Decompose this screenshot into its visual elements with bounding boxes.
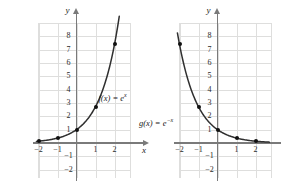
function-label-fx-text: f(x) = e [99,93,125,103]
y-tick-label: 7 [204,46,216,54]
gridline-horizontal [179,23,271,24]
gridline-horizontal [179,116,271,117]
x-tick-label: −2 [33,146,45,154]
gridline-horizontal [38,76,130,77]
function-label-gx: g(x) = e−x [139,117,173,128]
gridline-vertical [271,23,272,178]
y-tick-label: 1 [204,126,216,134]
x-axis-right [174,142,281,143]
y-tick-label: 2 [63,112,75,120]
gridline-horizontal [38,50,130,51]
y-tick-label: −1 [63,152,75,160]
y-tick-label: 1 [63,126,75,134]
gridline-horizontal [38,116,130,117]
data-point [113,42,117,46]
gridline-horizontal [38,36,130,37]
gridline-horizontal [179,50,271,51]
gridline-vertical [130,23,131,178]
y-tick-label: 5 [204,72,216,80]
y-tick-label: −1 [204,152,216,160]
gridline-vertical [199,23,200,178]
y-axis-right [217,14,219,181]
gridline-horizontal [38,90,130,91]
y-tick-label: 4 [63,86,75,94]
gridline-vertical [237,23,238,178]
gridline-vertical [96,23,97,178]
x-tick-label: −1 [193,146,205,154]
function-label-fx: f(x) = ex [99,92,127,103]
data-point [216,128,220,132]
function-label-gx-text: g(x) = e [139,118,166,128]
data-point [56,136,60,140]
y-tick-label: 3 [204,99,216,107]
function-label-fx-exponent: x [124,92,127,98]
data-point [94,105,98,109]
y-tick-label: −2 [204,166,216,174]
data-point [235,136,239,140]
y-tick-label: 6 [204,59,216,67]
data-point [178,42,182,46]
y-axis-arrow-left [73,8,79,14]
gridline-horizontal [179,63,271,64]
y-tick-label: 8 [204,32,216,40]
plot-panel-fx: y x 87654321−1−2−2−112 f(x) = ex [0,0,140,196]
x-tick-label: 1 [231,146,243,154]
gridline-horizontal [38,63,130,64]
plot-panel-gx: y x 87654321−1−2−2−112 g(x) = e−x [141,0,281,196]
y-tick-label: 4 [204,86,216,94]
data-point [197,105,201,109]
y-tick-label: 5 [63,72,75,80]
gridline-horizontal [179,36,271,37]
y-tick-label: 8 [63,32,75,40]
gridline-horizontal [179,156,271,157]
x-tick-label: 2 [109,146,121,154]
gridline-horizontal [179,130,271,131]
data-point [75,128,79,132]
gridline-horizontal [38,23,130,24]
gridline-horizontal [179,103,271,104]
gridline-horizontal [38,103,130,104]
x-tick-label: 1 [90,146,102,154]
y-axis-arrow-right [214,8,220,14]
gridline-horizontal [38,156,130,157]
y-axis-label-right: y [207,5,211,15]
gridline-vertical [38,23,39,178]
y-axis-left [76,14,78,181]
gridline-horizontal [179,76,271,77]
gridline-horizontal [179,90,271,91]
y-axis-label-left: y [66,5,70,15]
function-label-gx-exponent: −x [166,117,173,123]
gridline-vertical [179,23,180,178]
x-axis-left [33,142,143,143]
x-tick-label: −1 [52,146,64,154]
y-tick-label: 7 [63,46,75,54]
gridline-horizontal [38,130,130,131]
y-tick-label: 2 [204,112,216,120]
gridline-horizontal [38,170,130,171]
gridline-vertical [256,23,257,178]
grid-right [179,23,271,178]
exponential-functions-figure: y x 87654321−1−2−2−112 f(x) = ex y x 876… [0,0,281,196]
y-tick-label: 6 [63,59,75,67]
y-tick-label: −2 [63,166,75,174]
gridline-vertical [58,23,59,178]
x-tick-label: 2 [250,146,262,154]
data-point [254,139,258,143]
data-point [37,139,41,143]
gridline-horizontal [179,170,271,171]
x-tick-label: −2 [174,146,186,154]
y-tick-label: 3 [63,99,75,107]
